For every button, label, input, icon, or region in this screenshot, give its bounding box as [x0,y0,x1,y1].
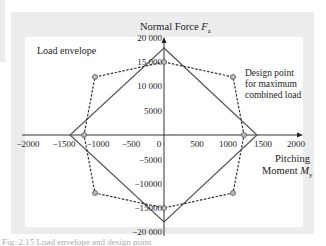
x-tick-label: −2000 [16,139,39,149]
design-point-annotation: Design point for maximum combined load [245,68,301,101]
y-tick-label: −15000 [134,203,162,213]
marker-circle-icon [242,133,247,138]
y-tick-label: 5000 [144,106,162,116]
y-tick-label: −20 000 [132,227,162,237]
x-tick-label: 0 [157,139,162,149]
x-tick-label: −1500 [52,139,75,149]
x-axis-sub: y [309,171,313,179]
x-axis-title: Pitching Moment My [262,153,310,181]
marker-circle-icon [93,75,98,80]
caption-text: Fig. 2.15 Load envelope and design point [2,238,326,246]
x-tick-label: 500 [190,139,204,149]
marker-circle-icon [82,133,87,138]
figure-caption: Fig. 2.15 Load envelope and design point [0,238,326,246]
y-axis-sub: z [208,27,211,35]
y-tick-label: −10000 [134,179,162,189]
x-axis-var: M [300,165,309,176]
y-tick-label: 10 000 [137,81,162,91]
x-axis-title-line1: Pitching [262,153,310,165]
annotation-line: combined load [245,90,301,101]
x-tick-label: −1000 [86,139,109,149]
x-axis-title-line2: Moment My [262,165,310,181]
y-axis-arrow-icon [162,37,167,43]
x-tick-label: 1000 [219,139,237,149]
marker-circle-icon [231,75,236,80]
x-tick-label: 2000 [287,139,305,149]
y-axis-title-text: Normal Force [140,21,201,32]
x-axis-title-text: Moment [262,165,300,176]
x-axis-arrow-icon [297,133,303,138]
annotation-line: Design point [245,68,301,79]
marker-circle-icon [231,191,236,196]
chart-title: Load envelope [37,46,96,56]
marker-circle-icon [93,191,98,196]
chart-canvas [0,0,326,246]
annotation-line: for maximum [245,79,301,90]
y-tick-label: 15 000 [137,57,162,67]
x-tick-label: −500 [122,139,141,149]
x-tick-label: 1500 [254,139,272,149]
y-tick-label: 20 000 [137,33,162,43]
marker-circle-icon [162,60,167,65]
y-tick-label: −5000 [139,155,162,165]
